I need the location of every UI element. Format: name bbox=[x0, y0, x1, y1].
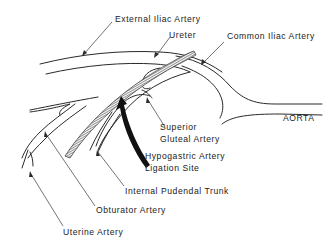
leader-external-iliac bbox=[84, 22, 112, 54]
arrowhead-common-iliac bbox=[201, 59, 206, 65]
arrowhead-uterine bbox=[29, 171, 33, 177]
arrowhead-obturator bbox=[44, 131, 48, 137]
uterine-branch-line bbox=[22, 150, 28, 168]
label-superior-gluteal-line1: Superior bbox=[160, 122, 197, 132]
leader-internal-pudendal bbox=[98, 152, 124, 186]
leader-uterine bbox=[31, 174, 63, 226]
label-ureter: Ureter bbox=[169, 30, 196, 40]
common-iliac-upper-wall bbox=[176, 56, 322, 104]
leader-obturator bbox=[46, 134, 95, 206]
arrowhead-superior-gluteal bbox=[146, 97, 150, 103]
label-uterine-artery: Uterine Artery bbox=[63, 227, 123, 237]
leader-ureter bbox=[156, 37, 170, 56]
label-internal-pudendal-trunk: Internal Pudendal Trunk bbox=[125, 186, 229, 196]
label-common-iliac-artery: Common Iliac Artery bbox=[227, 31, 315, 41]
label-obturator-artery: Obturator Artery bbox=[96, 205, 166, 215]
label-superior-gluteal-line2: Gluteal Artery bbox=[160, 134, 220, 144]
label-external-iliac-artery: External Iliac Artery bbox=[115, 14, 201, 24]
label-hypogastric-line2: Ligation Site bbox=[145, 163, 199, 173]
label-aorta: AORTA bbox=[283, 113, 315, 123]
leader-common-iliac bbox=[203, 42, 224, 63]
label-hypogastric-line1: Hypogastric Artery bbox=[145, 151, 225, 161]
